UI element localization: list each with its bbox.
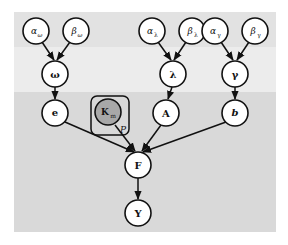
edge-alpha-gamma-to-gamma [221,42,233,60]
svg-text:m: m [110,112,116,119]
plate-label: P [119,125,127,135]
edge-beta-omega-to-omega [57,42,70,60]
node-A: A [153,100,179,126]
node-alpha-lambda: α λ [139,18,165,44]
svg-text:Y: Y [133,208,142,219]
edge-lambda-to-A [168,87,172,99]
svg-text:α: α [210,26,216,36]
svg-text:ω: ω [78,31,83,38]
node-Y: Y [125,200,151,226]
node-b: b [222,100,248,126]
node-beta-omega: β ω [63,18,89,44]
edge-beta-lambda-to-lambda [174,42,186,60]
svg-text:γ: γ [232,69,239,80]
node-e: e [42,100,68,126]
svg-text:A: A [161,108,170,119]
svg-text:β: β [249,26,255,36]
svg-text:λ: λ [169,69,176,80]
svg-text:γ: γ [217,31,221,39]
svg-text:γ: γ [257,31,261,39]
svg-text:λ: λ [194,31,198,38]
graphical-model: P α ω β ω ω e K m α λ β λ λ A [0,0,288,245]
svg-text:α: α [31,26,37,36]
edge-beta-gamma-to-gamma [237,42,249,60]
edge-alpha-omega-to-omega [42,42,54,60]
node-lambda: λ [160,61,186,87]
svg-text:λ: λ [154,31,158,38]
node-gamma: γ [222,61,248,87]
svg-text:ω: ω [50,69,60,80]
svg-text:e: e [52,107,58,118]
node-alpha-gamma: α γ [202,18,228,44]
svg-text:K: K [101,107,110,117]
node-alpha-omega: α ω [23,18,49,44]
node-beta-lambda: β λ [179,18,205,44]
edge-b-to-F [143,122,226,152]
node-beta-gamma: β γ [242,18,268,44]
node-Km: K m [95,99,121,125]
node-F: F [125,152,151,178]
node-omega: ω [42,61,68,87]
svg-text:b: b [232,107,239,118]
svg-text:β: β [186,26,192,36]
edge-alpha-lambda-to-lambda [158,42,171,60]
svg-text:ω: ω [38,31,43,38]
svg-text:β: β [70,26,76,36]
svg-text:α: α [147,26,153,36]
svg-text:F: F [134,160,141,171]
